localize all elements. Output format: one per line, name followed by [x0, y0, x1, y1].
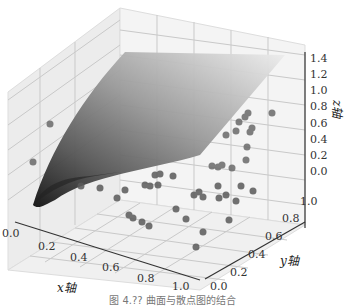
svg-text:0.2: 0.2 — [38, 240, 56, 253]
svg-text:0.6: 0.6 — [310, 117, 328, 130]
z-axis-label: z轴 — [330, 99, 344, 120]
svg-text:1.0: 1.0 — [300, 195, 318, 208]
svg-text:0.6: 0.6 — [265, 230, 283, 243]
svg-text:0.4: 0.4 — [70, 251, 88, 264]
svg-text:0.4: 0.4 — [310, 133, 328, 146]
svg-text:0.0: 0.0 — [310, 165, 328, 178]
svg-text:1.2: 1.2 — [310, 68, 328, 81]
svg-text:0.8: 0.8 — [310, 100, 328, 113]
svg-text:0.2: 0.2 — [230, 266, 248, 279]
svg-text:0.2: 0.2 — [310, 149, 328, 162]
svg-text:1.4: 1.4 — [310, 52, 328, 65]
svg-text:1.0: 1.0 — [310, 84, 328, 97]
svg-text:0.8: 0.8 — [282, 212, 300, 225]
svg-text:0.0: 0.0 — [2, 227, 20, 240]
z-axis-ticks: 1.4 1.2 1.0 0.8 0.6 0.4 0.2 0.0 — [310, 52, 328, 178]
svg-text:0.4: 0.4 — [248, 248, 266, 261]
svg-text:0.8: 0.8 — [137, 272, 155, 285]
svg-text:0.6: 0.6 — [102, 261, 120, 274]
y-axis-label: y轴 — [279, 254, 301, 268]
figure-caption: 图 4.?? 曲面与散点图的结合 — [0, 292, 345, 307]
